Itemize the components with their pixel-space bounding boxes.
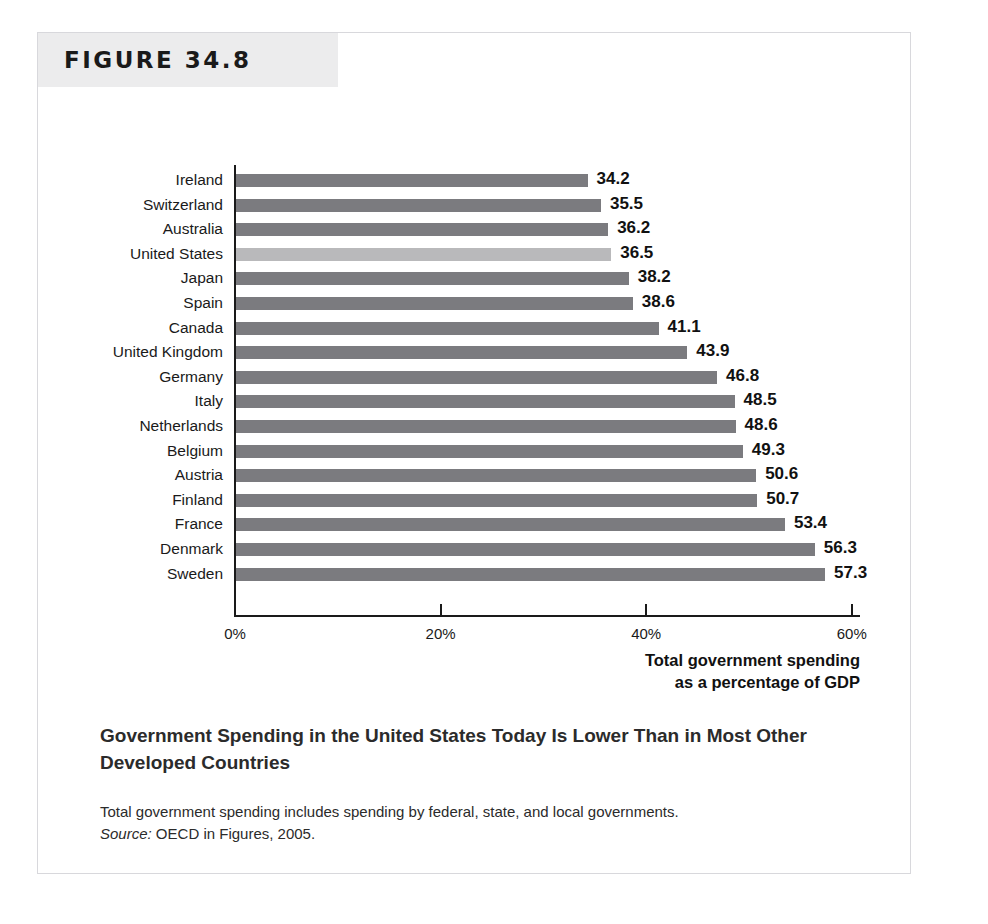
x-axis-title-line-1: Total government spending xyxy=(478,649,860,671)
figure-caption-title: Government Spending in the United States… xyxy=(100,723,870,777)
x-tick-mark xyxy=(234,604,236,617)
x-tick-label: 40% xyxy=(631,625,661,642)
figure-source-label: Source: xyxy=(100,825,152,842)
x-tick-mark xyxy=(645,604,647,617)
figure-source-line: Source: OECD in Figures, 2005. xyxy=(100,823,870,845)
x-tick-label: 20% xyxy=(426,625,456,642)
figure-number-banner: FIGURE 34.8 xyxy=(38,33,338,87)
x-axis-title-line-2: as a percentage of GDP xyxy=(478,671,860,693)
x-axis-ticks: 0%20%40%60% xyxy=(38,87,912,687)
figure-note-text: Total government spending includes spend… xyxy=(100,801,870,823)
figure-card: FIGURE 34.8 Ireland34.2Switzerland35.5Au… xyxy=(37,32,911,874)
figure-caption-block: Government Spending in the United States… xyxy=(100,723,870,844)
x-tick-label: 60% xyxy=(837,625,867,642)
figure-source-text: OECD in Figures, 2005. xyxy=(152,825,315,842)
x-tick-mark xyxy=(851,604,853,617)
x-axis-title: Total government spending as a percentag… xyxy=(478,649,860,694)
figure-caption-note: Total government spending includes spend… xyxy=(100,801,870,845)
figure-number-label: FIGURE 34.8 xyxy=(64,47,252,73)
x-tick-mark xyxy=(440,604,442,617)
x-tick-label: 0% xyxy=(224,625,246,642)
chart-plot-area: Ireland34.2Switzerland35.5Australia36.2U… xyxy=(38,87,912,687)
